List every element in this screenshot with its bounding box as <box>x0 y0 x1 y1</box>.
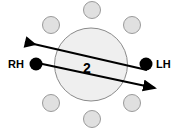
bolt-upper-right <box>124 17 141 34</box>
left-hand-label: LH <box>156 58 171 70</box>
bolt-upper-left <box>43 17 60 34</box>
right-hand-point <box>30 58 43 71</box>
bolt-top <box>84 2 101 19</box>
diagram-canvas: RH LH 2 <box>0 0 177 133</box>
separation-dimension-label: 2 <box>83 60 91 76</box>
right-hand-label: RH <box>8 58 24 70</box>
figure-container: RH LH 2 <box>0 0 177 133</box>
central-disc <box>55 28 128 101</box>
bolt-bottom <box>84 111 101 128</box>
bolt-lower-left <box>43 95 60 112</box>
bolt-lower-right <box>124 95 141 112</box>
left-hand-point <box>140 58 153 71</box>
